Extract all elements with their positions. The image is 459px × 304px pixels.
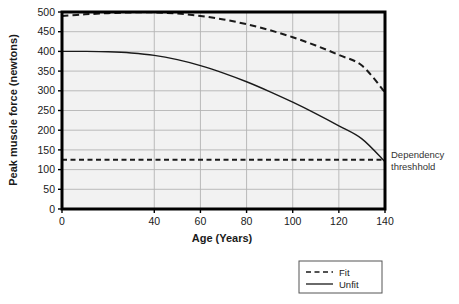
legend-label-unfit: Unfit [339,279,359,290]
legend-label-fit: Fit [339,267,350,278]
y-tick-label: 350 [37,65,55,77]
y-tick-label: 50 [43,183,55,195]
y-axis-title: Peak muscle force (newtons) [7,34,19,186]
y-tick-label: 250 [37,104,55,116]
x-tick-label: 40 [148,215,160,227]
muscle-force-vs-age-chart: 050100150200250300350400450500 040608010… [0,0,459,304]
chart-legend[interactable]: Fit Unfit [299,261,382,293]
y-tick-label: 150 [37,144,55,156]
y-tick-label: 300 [37,84,55,96]
y-tick-label: 400 [37,45,55,57]
threshold-annotation-line2: threshhold [391,161,435,172]
x-tick-label: 60 [195,215,207,227]
y-tick-label: 450 [37,25,55,37]
chart-figure: 050100150200250300350400450500 040608010… [0,0,459,304]
x-axis-title: Age (Years) [192,232,253,244]
x-tick-label: 140 [376,215,394,227]
x-tick-label: 120 [330,215,348,227]
y-axis-tick-labels: 050100150200250300350400450500 [37,6,55,215]
threshold-annotation-line1: Dependency [391,149,445,160]
y-tick-label: 0 [49,203,55,215]
x-tick-label: 100 [284,215,302,227]
y-tick-label: 500 [37,6,55,18]
x-axis-tick-labels: 0406080100120140 [59,215,394,227]
x-tick-label: 0 [59,215,65,227]
x-tick-label: 80 [241,215,253,227]
y-tick-label: 100 [37,163,55,175]
y-tick-label: 200 [37,124,55,136]
